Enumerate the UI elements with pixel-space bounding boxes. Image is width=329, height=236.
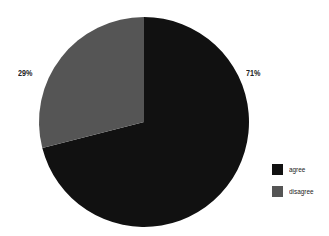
legend: agree disagree xyxy=(272,160,320,204)
legend-swatch-agree xyxy=(272,164,283,175)
slice-label-disagree: 29% xyxy=(18,68,32,78)
legend-swatch-disagree xyxy=(272,186,283,197)
slice-label-agree: 71% xyxy=(246,68,260,78)
legend-item-agree: agree xyxy=(272,160,320,178)
legend-label-agree: agree xyxy=(289,165,305,174)
legend-label-disagree: disagree xyxy=(289,187,314,196)
legend-item-disagree: disagree xyxy=(272,182,320,200)
